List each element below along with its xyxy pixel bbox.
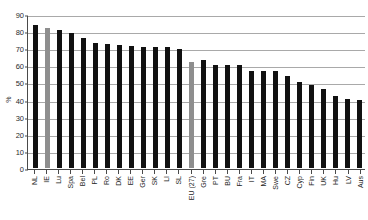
- bar[interactable]: [321, 89, 326, 168]
- x-axis-tick-group: MA: [257, 170, 269, 220]
- x-axis-tick-group: Spa: [64, 170, 76, 220]
- x-tick-mark: [203, 170, 204, 174]
- x-tick-label: DK: [115, 176, 122, 186]
- y-tick-mark: [25, 152, 28, 153]
- x-tick-mark: [82, 170, 83, 174]
- x-tick-mark: [34, 170, 35, 174]
- bar[interactable]: [105, 44, 110, 168]
- x-tick-label: Swe: [272, 176, 279, 190]
- bar[interactable]: [177, 49, 182, 168]
- bar[interactable]: [225, 65, 230, 168]
- x-axis-tick-group: IE: [40, 170, 52, 220]
- bar-slot: [329, 16, 341, 168]
- y-tick-label: 60: [16, 64, 24, 72]
- bar-slot: [89, 16, 101, 168]
- bar[interactable]: [249, 71, 254, 168]
- x-tick-label: MA: [260, 176, 267, 187]
- x-axis-tick-group: Ro: [100, 170, 112, 220]
- bar[interactable]: [261, 71, 266, 168]
- x-tick-label: Ger: [139, 176, 146, 188]
- x-tick-mark: [154, 170, 155, 174]
- bar[interactable]: [213, 65, 218, 168]
- bar[interactable]: [153, 47, 158, 168]
- bar-slot: [137, 16, 149, 168]
- x-tick-label: LV: [345, 176, 352, 184]
- x-tick-mark: [227, 170, 228, 174]
- bar[interactable]: [33, 25, 38, 168]
- bar-slot: [341, 16, 353, 168]
- x-tick-label: Hu: [332, 176, 339, 185]
- x-tick-label: Fin: [308, 176, 315, 186]
- x-tick-label: Fra: [236, 176, 243, 187]
- bar-slot: [233, 16, 245, 168]
- bar[interactable]: [357, 100, 362, 168]
- x-axis-tick-group: PT: [209, 170, 221, 220]
- x-tick-mark: [311, 170, 312, 174]
- x-tick-label: PT: [212, 176, 219, 185]
- x-axis-tick-group: LV: [342, 170, 354, 220]
- x-axis-tick-group: CZ: [282, 170, 294, 220]
- bar[interactable]: [81, 38, 86, 168]
- bar-slot: [53, 16, 65, 168]
- bar-slot: [305, 16, 317, 168]
- x-axis-tick-group: LI: [161, 170, 173, 220]
- bar-slot: [197, 16, 209, 168]
- bar-slot: [29, 16, 41, 168]
- bar[interactable]: [189, 62, 194, 168]
- x-tick-label: CZ: [284, 176, 291, 185]
- y-tick-label: 90: [16, 12, 24, 20]
- x-tick-label: Cyp: [296, 176, 303, 188]
- x-tick-mark: [58, 170, 59, 174]
- bar[interactable]: [333, 96, 338, 168]
- x-axis-tick-group: NL: [28, 170, 40, 220]
- x-axis-tick-group: SL: [173, 170, 185, 220]
- x-tick-mark: [299, 170, 300, 174]
- bar[interactable]: [165, 47, 170, 168]
- bar[interactable]: [273, 71, 278, 168]
- bar[interactable]: [237, 65, 242, 168]
- bar[interactable]: [141, 47, 146, 168]
- x-axis-labels: NLIELuSpaBelPLRoDKEEGerSKLISLEU (27)GreP…: [28, 170, 366, 220]
- x-tick-mark: [263, 170, 264, 174]
- bar-slot: [149, 16, 161, 168]
- x-axis-tick-group: Bel: [76, 170, 88, 220]
- y-tick-mark: [25, 135, 28, 136]
- x-tick-label: Aus: [357, 176, 364, 188]
- x-tick-mark: [178, 170, 179, 174]
- x-tick-label: IT: [248, 176, 255, 182]
- bar[interactable]: [201, 60, 206, 168]
- bar[interactable]: [45, 28, 50, 168]
- bar[interactable]: [285, 76, 290, 168]
- bar[interactable]: [117, 45, 122, 168]
- bar[interactable]: [129, 46, 134, 168]
- plot-area: 0102030405060708090: [27, 16, 365, 170]
- bars-container: [29, 16, 365, 168]
- bar[interactable]: [297, 82, 302, 168]
- x-tick-label: Bel: [79, 176, 86, 186]
- bar-slot: [65, 16, 77, 168]
- x-tick-mark: [215, 170, 216, 174]
- x-axis-tick-group: PL: [88, 170, 100, 220]
- x-axis-tick-group: IT: [245, 170, 257, 220]
- x-tick-label: IE: [43, 176, 50, 183]
- bar[interactable]: [309, 85, 314, 168]
- bar-slot: [173, 16, 185, 168]
- x-axis-tick-group: Fra: [233, 170, 245, 220]
- y-tick-label: 30: [16, 115, 24, 123]
- y-tick-label: 70: [16, 46, 24, 54]
- bar-slot: [221, 16, 233, 168]
- x-axis-tick-group: Cyp: [294, 170, 306, 220]
- bar[interactable]: [345, 99, 350, 168]
- bar[interactable]: [93, 43, 98, 168]
- bar[interactable]: [69, 33, 74, 168]
- x-axis-tick-group: Swe: [270, 170, 282, 220]
- bar-slot: [209, 16, 221, 168]
- x-tick-label: NL: [31, 176, 38, 185]
- bar[interactable]: [57, 30, 62, 168]
- y-tick-mark: [25, 50, 28, 51]
- x-axis-tick-group: Ger: [137, 170, 149, 220]
- y-tick-label: 20: [16, 132, 24, 140]
- x-tick-label: PL: [91, 176, 98, 185]
- bar-slot: [293, 16, 305, 168]
- y-tick-label: 40: [16, 98, 24, 106]
